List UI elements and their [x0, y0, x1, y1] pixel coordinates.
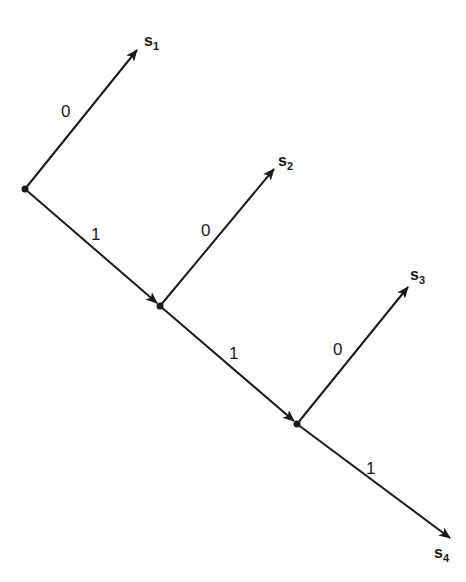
edge-label-n1-s2: 0 [201, 221, 210, 240]
edge-n0-n1 [25, 189, 157, 303]
edge-n2-s4 [297, 424, 450, 538]
leaf-s4: s4 [434, 544, 450, 564]
edge-label-n0-n1: 1 [91, 225, 100, 244]
leaf-s3: s3 [410, 266, 425, 286]
node-2 [294, 421, 301, 428]
leaf-s2: s2 [278, 152, 293, 172]
edge-label-n1-n2: 1 [229, 344, 238, 363]
edge-label-n2-s3: 0 [333, 340, 342, 359]
edge-n0-s1 [25, 50, 137, 189]
edge-label-n2-s4: 1 [366, 459, 375, 478]
node-1 [157, 303, 164, 310]
edge-label-n0-s1: 0 [61, 102, 70, 121]
edge-n1-n2 [160, 306, 294, 421]
code-tree-diagram: 0 1 0 1 0 1 s1 s2 s3 s4 [0, 0, 466, 582]
edge-n1-s2 [160, 169, 274, 306]
node-root [22, 186, 29, 193]
leaf-s1: s1 [144, 32, 159, 52]
edge-n2-s3 [297, 287, 408, 424]
